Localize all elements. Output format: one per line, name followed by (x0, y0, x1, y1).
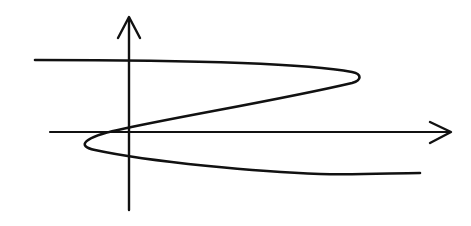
y-axis (118, 17, 140, 210)
diagram-canvas (0, 0, 471, 226)
s-curve (35, 60, 420, 174)
diagram-svg (0, 0, 471, 226)
